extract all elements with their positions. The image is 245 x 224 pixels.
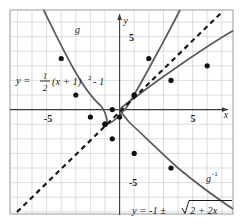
data-point <box>205 63 210 68</box>
curve-label-g: g <box>75 24 80 35</box>
equation-parabola-exponent: 2 <box>88 74 92 82</box>
data-point <box>102 122 107 127</box>
x-tick-positive-5: 5 <box>191 113 196 124</box>
data-point <box>132 151 137 156</box>
data-point <box>88 114 93 119</box>
data-point <box>132 92 137 97</box>
x-axis-label: x <box>223 109 229 120</box>
data-point <box>168 165 173 170</box>
curve-label-g-inverse: g <box>206 173 211 184</box>
equation-parabola-binomial: (x + 1) <box>52 76 82 88</box>
equation-parabola-prefix: y = <box>15 75 30 86</box>
y-tick-negative-5: -5 <box>129 177 137 188</box>
equation-inverse-radicand: 2 + 2x <box>190 205 218 216</box>
curve-label-g-inverse-exponent: -1 <box>212 170 218 178</box>
data-point <box>59 56 64 61</box>
x-tick-negative-5: -5 <box>44 113 52 124</box>
data-point <box>110 107 115 112</box>
graph-figure: y x 5 -5 -5 5 g g -1 y = 1 2 (x + 1) 2 -… <box>0 0 245 224</box>
y-tick-positive-5: 5 <box>129 32 134 43</box>
equation-parabola-numerator: 1 <box>43 71 48 81</box>
data-point <box>110 136 115 141</box>
equation-parabola-denominator: 2 <box>43 83 48 93</box>
data-point <box>168 78 173 83</box>
data-point <box>73 92 78 97</box>
figure-container: y x 5 -5 -5 5 g g -1 y = 1 2 (x + 1) 2 -… <box>0 0 245 224</box>
data-point <box>146 56 151 61</box>
equation-inverse-lead: y = -1 ± <box>131 205 166 216</box>
equation-parabola-constant: - 1 <box>93 76 104 87</box>
data-point <box>117 114 122 119</box>
y-axis-label: y <box>123 15 129 26</box>
